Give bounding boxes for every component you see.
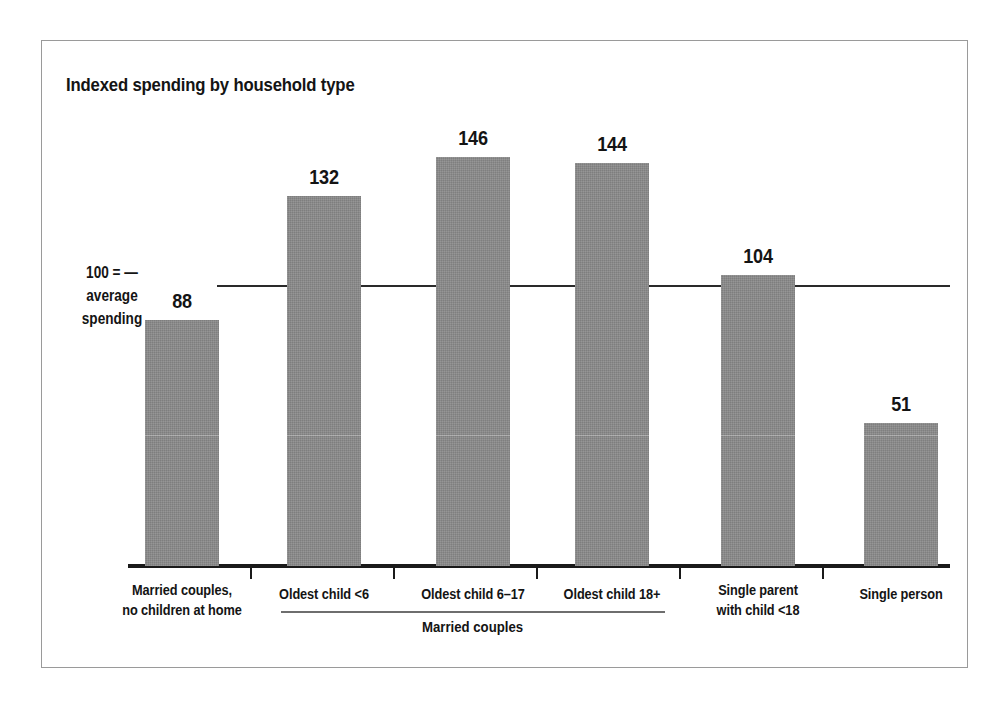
group-bracket-line (281, 611, 665, 613)
category-label: Single parentwith child <18 (678, 580, 838, 620)
category-label-line: with child <18 (688, 600, 829, 620)
category-label-line: Single person (831, 584, 972, 604)
chart-title: Indexed spending by household type (66, 74, 355, 96)
category-label: Oldest child 18+ (532, 584, 692, 604)
axis-annotation-100-average-spending: 100 = — average spending (46, 261, 178, 330)
category-label: Married couples,no children at home (102, 580, 262, 620)
category-label-line: Married couples, (112, 580, 253, 600)
axis-annotation-line-1: 100 = — (56, 261, 168, 284)
category-label: Single person (821, 584, 981, 604)
category-label: Oldest child 6–17 (393, 584, 553, 604)
category-label: Oldest child <6 (244, 584, 404, 604)
category-label-line: Oldest child 18+ (542, 584, 683, 604)
axis-annotation-line-2: average (56, 284, 168, 307)
category-label-line: Oldest child 6–17 (403, 584, 544, 604)
group-bracket-label: Married couples (281, 618, 665, 635)
category-label-line: Single parent (688, 580, 829, 600)
axis-annotation-line-3: spending (56, 307, 168, 330)
figure-frame (41, 40, 968, 668)
group-bracket-label-text: Married couples (422, 618, 523, 635)
category-label-line: Oldest child <6 (254, 584, 395, 604)
category-label-line: no children at home (112, 600, 253, 620)
